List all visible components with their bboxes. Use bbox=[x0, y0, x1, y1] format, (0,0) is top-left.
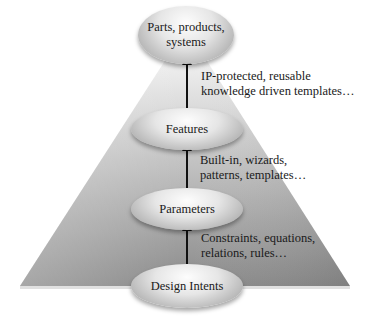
connector-label-design-intents-to-parameters: Constraints, equations, relations, rules… bbox=[201, 231, 315, 261]
node-parameters: Parameters bbox=[131, 188, 243, 230]
arrow-parameters-to-features bbox=[186, 150, 188, 190]
connector-label-line1: Constraints, equations, bbox=[201, 231, 315, 246]
arrow-design-intents-to-parameters bbox=[186, 230, 188, 268]
node-features-label: Features bbox=[166, 122, 208, 137]
node-features: Features bbox=[131, 108, 243, 150]
arrow-features-to-parts bbox=[186, 64, 188, 110]
connector-label-line2: patterns, templates… bbox=[200, 168, 306, 183]
node-design-intents: Design Intents bbox=[131, 264, 243, 308]
connector-label-parameters-to-features: Built-in, wizards, patterns, templates… bbox=[200, 153, 306, 183]
node-parameters-label: Parameters bbox=[159, 202, 215, 217]
connector-label-line1: IP-protected, reusable bbox=[201, 69, 354, 84]
connector-label-line2: knowledge driven templates… bbox=[201, 84, 354, 99]
node-parts-line1: Parts, products, bbox=[147, 20, 224, 35]
node-design-intents-label: Design Intents bbox=[151, 279, 224, 294]
node-parts-products-systems: Parts, products, systems bbox=[138, 6, 234, 64]
connector-label-line1: Built-in, wizards, bbox=[200, 153, 306, 168]
connector-label-line2: relations, rules… bbox=[201, 246, 315, 261]
connector-label-features-to-parts: IP-protected, reusable knowledge driven … bbox=[201, 69, 354, 99]
node-parts-line2: systems bbox=[147, 35, 224, 50]
